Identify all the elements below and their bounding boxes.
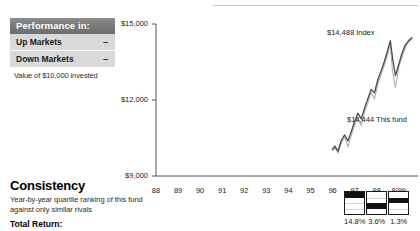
quartile-box	[366, 191, 387, 215]
annotation-index: $14,488 Index	[327, 28, 375, 37]
quartile-box	[344, 191, 365, 215]
growth-chart: $9,000$12,000$15,000 8889909192939495969…	[112, 14, 420, 186]
consistency-title: Consistency	[10, 178, 160, 193]
performance-row-label: Up Markets	[16, 37, 103, 47]
quartile-cell[interactable]: 1.3%	[388, 191, 409, 226]
quartile-divider	[345, 209, 364, 210]
quartile-divider	[345, 203, 364, 204]
quartile-return-value: 14.8%	[344, 217, 365, 226]
total-return-label: Total Return:	[10, 219, 160, 229]
performance-row-value: –	[103, 54, 108, 64]
performance-panel: Performance in: Up Markets – Down Market…	[10, 18, 115, 80]
consistency-section: Consistency Year-by-year quartile rankin…	[10, 178, 160, 229]
performance-panel-note: Value of $10,000 invested	[10, 68, 115, 80]
quartile-band	[367, 203, 386, 209]
quartile-cell[interactable]: 14.8%	[344, 191, 365, 226]
annotation-this-fund: $14,444 This fund	[347, 115, 407, 124]
performance-panel-header: Performance in:	[10, 18, 115, 34]
quartile-band	[389, 198, 408, 204]
quartile-box	[388, 191, 409, 215]
y-axis-tick-label: $12,000	[108, 95, 148, 104]
performance-row-down-markets[interactable]: Down Markets –	[10, 51, 115, 68]
top-divider	[213, 5, 418, 6]
chart-plot-area	[112, 14, 420, 186]
quartile-band	[345, 192, 364, 198]
performance-row-value: –	[103, 37, 108, 47]
quartile-return-value: 1.3%	[388, 217, 409, 226]
quartile-divider	[367, 198, 386, 199]
y-axis-tick-label: $15,000	[108, 19, 148, 28]
quartile-divider	[389, 209, 408, 210]
quartile-cell[interactable]: 3.6%	[366, 191, 387, 226]
performance-row-up-markets[interactable]: Up Markets –	[10, 34, 115, 51]
performance-row-label: Down Markets	[16, 54, 103, 64]
quartile-return-value: 3.6%	[366, 217, 387, 226]
consistency-subtitle: Year-by-year quartile ranking of this fu…	[10, 195, 160, 214]
